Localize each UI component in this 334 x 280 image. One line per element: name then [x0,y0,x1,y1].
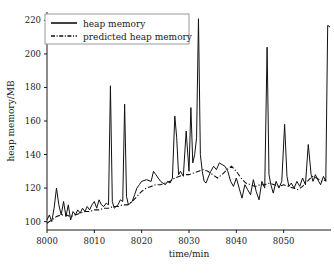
x-tick-label: 8040 [226,236,248,246]
chart-legend: heap memory predicted heap memory [45,14,193,44]
y-tick-label: 180 [25,82,41,92]
x-tick-label: 8030 [178,236,200,246]
y-tick-label: 120 [25,183,41,193]
y-axis-title: heap memory/MB [6,80,16,162]
x-tick-label: 8020 [131,236,153,246]
y-tick-label: 160 [25,116,41,126]
legend-label-predicted-heap-memory: predicted heap memory [83,32,193,42]
y-tick-label: 100 [25,217,41,227]
heap-memory-line-chart: 100120140160180200220 800080108020803080… [0,0,334,280]
chart-container: 100120140160180200220 800080108020803080… [0,0,334,280]
legend-label-heap-memory: heap memory [83,19,146,29]
x-tick-label: 8050 [273,236,295,246]
y-tick-label: 200 [25,49,41,59]
x-tick-label: 8000 [36,236,58,246]
x-axis-title: time/min [169,249,210,259]
x-tick-label: 8010 [84,236,106,246]
y-tick-label: 140 [25,150,41,160]
y-tick-label: 220 [25,15,41,25]
